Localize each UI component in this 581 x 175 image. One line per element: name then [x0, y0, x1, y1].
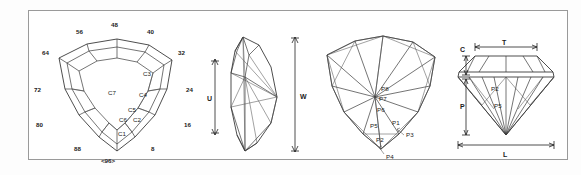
- facet-label-p7: P7: [379, 95, 387, 102]
- index-label-32: 32: [178, 49, 185, 56]
- index-label-8: 8: [151, 145, 155, 152]
- facet-label-p6: P6: [377, 106, 385, 113]
- dimension-label-u: U: [207, 95, 212, 102]
- pavilion-view: P8 P7 P6 P5 P1 P2 P3 P4: [313, 11, 449, 161]
- dimension-label-w: W: [300, 93, 307, 100]
- index-label-80: 80: [36, 121, 43, 128]
- facet-label-c5: C5: [128, 106, 136, 113]
- index-label-64: 64: [42, 49, 49, 56]
- facet-label-c2: C2: [133, 116, 141, 123]
- dimension-label-t: T: [502, 39, 507, 46]
- facet-label-p1: P1: [392, 119, 400, 126]
- side-profile-view: U W: [201, 11, 311, 161]
- dimension-label-c: C: [460, 46, 465, 53]
- index-label-56: 56: [76, 28, 83, 35]
- index-label-16: 16: [184, 121, 191, 128]
- facet-label-p8: P8: [381, 85, 389, 92]
- facet-label-p4: P4: [386, 153, 394, 160]
- cut-profile-view: C P T L P2 P5: [449, 11, 569, 161]
- index-label-48: 48: [111, 21, 118, 28]
- index-label-72: 72: [34, 86, 41, 93]
- facet-label-c3: C3: [143, 70, 151, 77]
- index-label-88: 88: [74, 145, 81, 152]
- facet-label-c7: C7: [108, 89, 116, 96]
- screenshot-root: 48 56 40 64 32 72 24 80 16 88 8 <96> C7 …: [0, 0, 581, 175]
- facet-label-p3: P3: [406, 131, 414, 138]
- dimension-label-l: L: [503, 151, 508, 158]
- facet-label-c1: C1: [118, 130, 126, 137]
- facet-label-p5: P5: [370, 122, 378, 129]
- index-label-40: 40: [147, 28, 154, 35]
- profile-facet-label-p2: P2: [491, 85, 499, 92]
- index-label-96: <96>: [101, 157, 115, 164]
- dimension-label-p: P: [460, 103, 465, 110]
- facet-label-c4: C4: [139, 91, 147, 98]
- profile-facet-label-p5: P5: [494, 102, 502, 109]
- facet-label-p2: P2: [376, 136, 384, 143]
- facet-label-c6: C6: [119, 116, 127, 123]
- diagram-plate: 48 56 40 64 32 72 24 80 16 88 8 <96> C7 …: [28, 10, 568, 160]
- index-label-24: 24: [186, 86, 193, 93]
- crown-view: 48 56 40 64 32 72 24 80 16 88 8 <96> C7 …: [29, 11, 199, 161]
